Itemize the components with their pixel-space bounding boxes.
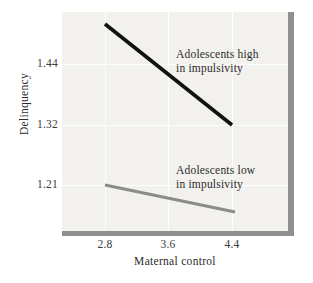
x-axis-title: Maternal control: [62, 255, 288, 267]
annotation-low-line-1: Adolescents low: [176, 164, 255, 176]
annotation-high-line-1: Adolescents high: [176, 48, 259, 60]
x-tick-label-0: 2.8: [82, 238, 128, 250]
y-axis-title: Delinquency: [18, 44, 30, 164]
x-tick-label-2: 4.4: [209, 238, 255, 250]
gridline-x-3.6: [168, 12, 169, 231]
annotation-adolescents-high-in-impulsivity: Adolescents high in impulsivity: [176, 48, 259, 75]
gridline-x-4.4: [232, 12, 233, 231]
plot-area: [62, 12, 288, 231]
gridline-x-2.8: [105, 12, 106, 231]
annotation-adolescents-low-in-impulsivity: Adolescents low in impulsivity: [176, 164, 255, 191]
gridline-y-1.32: [62, 125, 288, 126]
y-axis-right-bar: [288, 12, 294, 236]
annotation-low-line-2: in impulsivity: [176, 178, 255, 192]
x-tick-label-1: 3.6: [145, 238, 191, 250]
chart-figure: 1.44 1.32 1.21 2.8 3.6 4.4 Delinquency M…: [0, 0, 313, 283]
annotation-high-line-2: in impulsivity: [176, 62, 259, 76]
x-axis-bar: [62, 231, 294, 236]
y-tick-label-2: 1.21: [0, 178, 58, 190]
